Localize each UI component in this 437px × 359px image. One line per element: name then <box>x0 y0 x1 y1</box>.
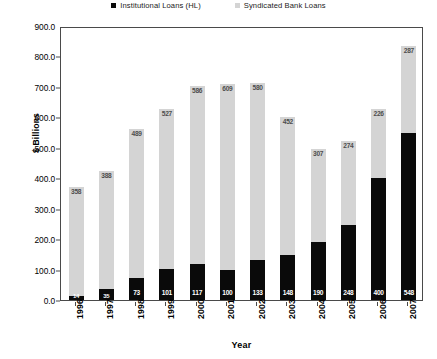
plot-frame: 3581438835489735271015861176091005801334… <box>60 27 423 301</box>
x-axis-title: Year <box>60 340 423 350</box>
bar-segment-institutional-loans: 117 <box>190 264 205 300</box>
legend-swatch-institutional-loans <box>111 3 116 8</box>
bar-value-label: 148 <box>280 290 295 297</box>
y-axis-tick-label: 600.0 <box>3 113 55 123</box>
bar-value-label: 358 <box>69 189 84 196</box>
bar-group: 274248 <box>341 141 356 300</box>
bar-segment-institutional-loans: 190 <box>311 242 326 300</box>
x-axis-tick-label: 2006 <box>378 299 388 319</box>
bar-segment-syndicated-bank-loans: 489 <box>129 129 144 278</box>
legend-entry-syndicated-bank-loans: Syndicated Bank Loans <box>235 2 326 10</box>
bar-group: 38835 <box>99 171 114 300</box>
bar-segment-syndicated-bank-loans: 226 <box>371 109 386 178</box>
bar-group: 35814 <box>69 187 84 300</box>
x-axis-tick-label: 2004 <box>317 299 327 319</box>
bar-segment-syndicated-bank-loans: 287 <box>401 46 416 133</box>
bar-value-label: 307 <box>311 151 326 158</box>
bar-value-label: 248 <box>341 290 356 297</box>
bar-value-label: 117 <box>190 290 205 297</box>
x-axis-tick-label: 2003 <box>287 299 297 319</box>
bar-segment-syndicated-bank-loans: 307 <box>311 149 326 242</box>
y-axis-tick-label: 200.0 <box>3 235 55 245</box>
bar-segment-institutional-loans: 100 <box>220 270 235 300</box>
x-axis-tick-label: 2007 <box>408 299 418 319</box>
x-axis-tick-label: 1999 <box>166 299 176 319</box>
x-axis-tick-label: 1997 <box>105 299 115 319</box>
bar-segment-syndicated-bank-loans: 527 <box>159 109 174 269</box>
bar-value-label: 101 <box>159 290 174 297</box>
bar-value-label: 580 <box>250 85 265 92</box>
x-axis-tick-label: 2005 <box>347 299 357 319</box>
bar-segment-institutional-loans: 133 <box>250 260 265 300</box>
bar-group: 609100 <box>220 84 235 300</box>
legend-entry-institutional-loans: Institutional Loans (HL) <box>111 2 201 10</box>
x-axis-tick-label: 2002 <box>257 299 267 319</box>
bar-value-label: 452 <box>280 119 295 126</box>
bar-value-label: 489 <box>129 131 144 138</box>
bar-group: 226400 <box>371 109 386 300</box>
bar-group: 452148 <box>280 117 295 300</box>
bar-segment-syndicated-bank-loans: 452 <box>280 117 295 255</box>
y-axis-ticks: 0.0100.0200.0300.0400.0500.0600.0700.080… <box>0 27 60 301</box>
y-axis-tick-label: 500.0 <box>3 144 55 154</box>
bar-value-label: 73 <box>129 290 144 297</box>
bar-segment-institutional-loans: 73 <box>129 278 144 300</box>
x-axis-tick-label: 2000 <box>196 299 206 319</box>
bar-value-label: 609 <box>220 86 235 93</box>
bar-group: 527101 <box>159 109 174 300</box>
bar-segment-institutional-loans: 548 <box>401 133 416 300</box>
y-axis-tick-label: 100.0 <box>3 266 55 276</box>
bar-segment-institutional-loans: 248 <box>341 225 356 301</box>
bar-segment-syndicated-bank-loans: 609 <box>220 84 235 269</box>
bar-value-label: 586 <box>190 88 205 95</box>
y-axis-tick-label: 0.0 <box>3 296 55 306</box>
bar-value-label: 548 <box>401 290 416 297</box>
bar-value-label: 133 <box>250 290 265 297</box>
bar-value-label: 100 <box>220 290 235 297</box>
bar-segment-syndicated-bank-loans: 358 <box>69 187 84 296</box>
bar-segment-institutional-loans: 101 <box>159 269 174 300</box>
bar-segment-syndicated-bank-loans: 580 <box>250 83 265 260</box>
bar-value-label: 226 <box>371 111 386 118</box>
bar-group: 48973 <box>129 129 144 300</box>
x-axis-tick-label: 1998 <box>136 299 146 319</box>
plot-area: 3581438835489735271015861176091005801334… <box>61 28 422 300</box>
stacked-bar-chart: Institutional Loans (HL) Syndicated Bank… <box>0 0 437 359</box>
bar-value-label: 400 <box>371 290 386 297</box>
bar-segment-syndicated-bank-loans: 274 <box>341 141 356 224</box>
bar-segment-institutional-loans: 400 <box>371 178 386 300</box>
bar-group: 580133 <box>250 83 265 300</box>
y-axis-tick-label: 300.0 <box>3 205 55 215</box>
bar-group: 586117 <box>190 86 205 300</box>
legend-swatch-syndicated-bank-loans <box>235 3 240 8</box>
bar-group: 307190 <box>311 149 326 300</box>
bar-segment-institutional-loans: 148 <box>280 255 295 300</box>
y-axis-tick-label: 900.0 <box>3 22 55 32</box>
bar-group: 287548 <box>401 46 416 300</box>
bar-segment-syndicated-bank-loans: 586 <box>190 86 205 264</box>
legend-label-syndicated-bank-loans: Syndicated Bank Loans <box>244 2 326 10</box>
bar-value-label: 527 <box>159 111 174 118</box>
bar-value-label: 190 <box>311 290 326 297</box>
bar-value-label: 274 <box>341 143 356 150</box>
bar-value-label: 287 <box>401 48 416 55</box>
bar-segment-syndicated-bank-loans: 388 <box>99 171 114 289</box>
legend-label-institutional-loans: Institutional Loans (HL) <box>120 2 201 10</box>
chart-legend: Institutional Loans (HL) Syndicated Bank… <box>0 2 437 10</box>
y-axis-tick-label: 700.0 <box>3 83 55 93</box>
x-axis-tick-label: 1996 <box>75 299 85 319</box>
y-axis-tick-label: 800.0 <box>3 52 55 62</box>
bar-value-label: 388 <box>99 173 114 180</box>
x-axis-tick-label: 2001 <box>226 299 236 319</box>
y-axis-tick-label: 400.0 <box>3 174 55 184</box>
